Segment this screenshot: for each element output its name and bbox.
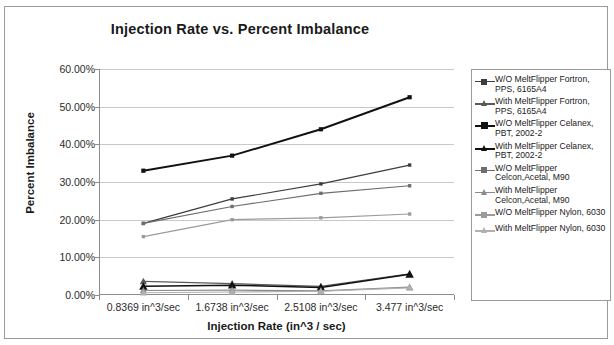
legend-label: With MeltFlipper Nylon, 6030	[495, 224, 605, 234]
legend-item[interactable]: With MeltFlipper Celcon,Acetal, M90	[475, 186, 607, 205]
legend-label: With MeltFlipper Celanex, PBT, 2002-2	[495, 142, 607, 161]
data-point	[408, 184, 411, 187]
x-axis-tick-labels: 0.8369 in^3/sec1.6738 in^3/sec2.5108 in^…	[99, 301, 454, 317]
triangle-marker-icon	[475, 225, 495, 237]
triangle-marker-icon	[475, 143, 495, 155]
data-point	[230, 197, 233, 200]
square-marker-icon	[475, 76, 495, 88]
series-line	[143, 214, 409, 237]
x-axis-tick-mark	[99, 295, 100, 300]
plot-wrapper	[99, 69, 454, 295]
x-axis-tick-label: 3.477 in^3/sec	[376, 301, 443, 313]
legend-item[interactable]: With MeltFlipper Celanex, PBT, 2002-2	[475, 142, 607, 161]
y-axis-tick-label: 50.00%	[59, 101, 95, 113]
chart-title: Injection Rate vs. Percent Imbalance	[5, 21, 475, 37]
data-point	[319, 182, 322, 185]
chart-legend: W/O MeltFlipper Fortron, PPS, 6165A4With…	[471, 69, 611, 301]
data-point	[319, 192, 322, 195]
x-axis-tick-mark	[277, 295, 278, 300]
data-point	[319, 127, 323, 131]
legend-label: W/O MeltFlipper Celcon,Acetal, M90	[495, 164, 607, 183]
y-axis-title: Percent Imbalance	[24, 88, 36, 238]
triangle-marker-icon	[475, 187, 495, 199]
x-axis-tick-mark	[188, 295, 189, 300]
chart-frame: Injection Rate vs. Percent Imbalance 0.0…	[4, 6, 608, 339]
square-marker-icon	[475, 209, 495, 221]
data-point	[230, 154, 234, 158]
y-axis-tick-label: 20.00%	[59, 214, 95, 226]
y-axis-tick-label: 40.00%	[59, 138, 95, 150]
y-axis-tick-label: 0.00%	[65, 289, 95, 301]
x-axis-title: Injection Rate (in^3 / sec)	[99, 320, 454, 332]
square-marker-icon	[475, 165, 495, 177]
triangle-marker-icon	[475, 98, 495, 110]
series-line	[143, 97, 409, 170]
legend-label: W/O MeltFlipper Fortron, PPS, 6165A4	[495, 75, 607, 94]
data-point	[408, 95, 412, 99]
data-point	[230, 205, 233, 208]
series-3	[139, 270, 414, 291]
legend-label: With MeltFlipper Celcon,Acetal, M90	[495, 186, 607, 205]
legend-item[interactable]: With MeltFlipper Nylon, 6030	[475, 224, 607, 237]
x-axis-tick-label: 2.5108 in^3/sec	[284, 301, 357, 313]
data-point	[142, 235, 145, 238]
data-point	[408, 163, 411, 166]
series-2	[141, 95, 411, 173]
legend-label: W/O MeltFlipper Nylon, 6030	[495, 208, 605, 218]
data-point	[141, 169, 145, 173]
series-line	[143, 165, 409, 223]
legend-item[interactable]: W/O MeltFlipper Celcon,Acetal, M90	[475, 164, 607, 183]
series-layer	[99, 69, 454, 295]
data-point	[142, 222, 145, 225]
data-point	[230, 218, 233, 221]
legend-item[interactable]: W/O MeltFlipper Fortron, PPS, 6165A4	[475, 75, 607, 94]
legend-item[interactable]: With MeltFlipper Fortron, PPS, 6165A4	[475, 97, 607, 116]
square-marker-icon	[475, 120, 495, 132]
x-axis-tick-label: 0.8369 in^3/sec	[107, 301, 180, 313]
x-axis-tick-label: 1.6738 in^3/sec	[196, 301, 269, 313]
legend-item[interactable]: W/O MeltFlipper Celanex, PBT, 2002-2	[475, 119, 607, 138]
data-point	[408, 212, 411, 215]
legend-label: With MeltFlipper Fortron, PPS, 6165A4	[495, 97, 607, 116]
data-point	[319, 216, 322, 219]
y-axis-tick-label: 60.00%	[59, 63, 95, 75]
x-axis-tick-mark	[365, 295, 366, 300]
x-axis-tick-mark	[454, 295, 455, 300]
y-axis-tick-labels: 0.00%10.00%20.00%30.00%40.00%50.00%60.00…	[33, 69, 95, 295]
y-axis-tick-label: 30.00%	[59, 176, 95, 188]
legend-item[interactable]: W/O MeltFlipper Nylon, 6030	[475, 208, 607, 221]
y-axis-tick-label: 10.00%	[59, 251, 95, 263]
legend-label: W/O MeltFlipper Celanex, PBT, 2002-2	[495, 119, 607, 138]
